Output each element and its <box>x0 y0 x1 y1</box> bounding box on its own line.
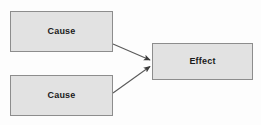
node-cause-1-label: Cause <box>47 27 75 36</box>
diagram-canvas: Cause Cause Effect <box>0 0 261 125</box>
node-cause-2-label: Cause <box>47 91 75 100</box>
edge-cause2-to-effect <box>113 67 150 94</box>
node-effect[interactable]: Effect <box>152 43 253 80</box>
node-cause-2[interactable]: Cause <box>10 75 113 116</box>
edge-cause1-to-effect <box>113 44 150 60</box>
node-effect-label: Effect <box>189 57 215 66</box>
node-cause-1[interactable]: Cause <box>10 11 113 52</box>
